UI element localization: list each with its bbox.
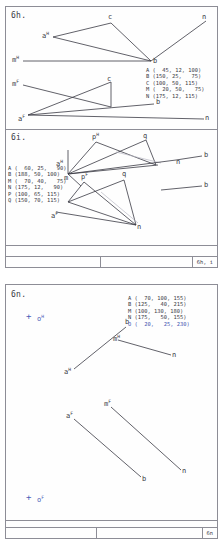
label-n-top-6i: n xyxy=(176,158,180,166)
panel-6h: 6h. aH mH c n b mF c b aF n A ( 45, 12, … xyxy=(6,7,217,130)
drawing-sheet-top: 6h. aH mH c n b mF c b aF n A ( 45, 12, … xyxy=(5,6,218,268)
coord-row: Q (150, 70, 115) xyxy=(8,197,66,203)
footer-cell-mid xyxy=(101,257,193,267)
label-b-top-6i: b xyxy=(204,151,208,159)
label-m-h-6n: mH xyxy=(113,334,120,343)
plus-mark-o-f: + xyxy=(26,493,31,502)
coordinate-list-6n: A ( 70, 100, 155)B (125, 40, 215)M (100,… xyxy=(128,295,190,327)
coord-row: N (175, 12, 90) xyxy=(8,184,66,190)
label-o-h: oH xyxy=(37,314,44,323)
label-m-h-top: mH xyxy=(12,55,19,64)
label-n-bottom-6i: n xyxy=(137,223,141,231)
footer-sheet-number-top: 6h, i xyxy=(193,257,217,267)
footer-cell-left-2 xyxy=(6,528,97,538)
label-m-f: mF xyxy=(12,79,19,88)
label-a-h-top: aH xyxy=(42,31,49,40)
panel-6n: 6n. + oH b mH aH n mF aF b n + oF A ( 70… xyxy=(6,285,217,521)
label-o-f: oF xyxy=(37,495,44,504)
coord-row: M ( 20, 50, 75) xyxy=(146,86,204,92)
label-b-top: b xyxy=(153,57,157,65)
label-n-upper: n xyxy=(172,351,176,359)
coordinate-list-6h: A ( 45, 12, 100)B (150, 25, 75)C (100, 5… xyxy=(146,67,204,99)
coord-row: B (125, 40, 215) xyxy=(128,301,190,307)
sheet-bottom-footer: 6n xyxy=(6,527,217,538)
label-b-bottom: b xyxy=(156,98,160,106)
label-p-h-6i: pH xyxy=(92,132,99,141)
label-m-f-6n: mF xyxy=(104,399,111,408)
label-b-bottom-6i: b xyxy=(204,181,208,189)
label-q-top-6i: q xyxy=(143,132,147,140)
label-n-lower: n xyxy=(182,467,186,475)
label-a-f: aF xyxy=(18,114,25,123)
drawing-sheet-bottom: 6n. + oH b mH aH n mF aF b n + oF A ( 70… xyxy=(5,284,218,539)
footer-cell-left xyxy=(6,257,101,267)
label-a-f-6i: aF xyxy=(51,211,58,220)
sheet-top-footer: 6h, i xyxy=(6,256,217,267)
coord-row: B (188, 50, 100) xyxy=(8,171,66,177)
coord-row-highlight: O ( 20, 25, 230) xyxy=(128,321,190,327)
plus-mark-o-h: + xyxy=(26,312,31,321)
label-n-bottom: n xyxy=(205,114,209,122)
coord-row: N (175, 50, 155) xyxy=(128,314,190,320)
label-a-f-6n: aF xyxy=(66,411,73,420)
coord-row: N (175, 12, 115) xyxy=(146,93,204,99)
label-q-bottom-6i: q xyxy=(122,170,126,178)
coord-row: B (150, 25, 75) xyxy=(146,73,204,79)
footer-cell-mid-2 xyxy=(97,528,203,538)
label-c-bottom: c xyxy=(107,75,111,83)
footer-sheet-number-bottom: 6n xyxy=(203,528,218,538)
coordinate-list-6i: A ( 60, 25, 90)B (188, 50, 100)M ( 70, 4… xyxy=(8,165,66,203)
panel-6i: 6i. aH pH q b n m pF q b xyxy=(6,130,217,246)
label-a-h-6n: aH xyxy=(64,367,71,376)
label-c-top: c xyxy=(108,13,112,21)
label-p-f-6i: pF xyxy=(81,172,88,181)
label-b-lower: b xyxy=(142,475,146,483)
label-n-top: n xyxy=(202,13,206,21)
